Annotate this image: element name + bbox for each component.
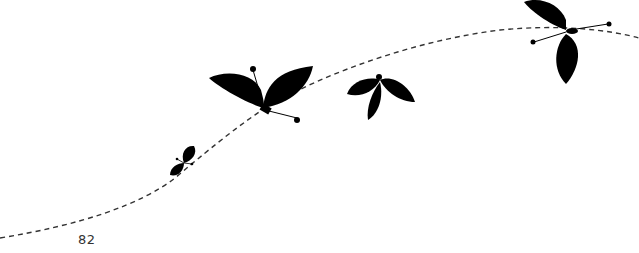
butterfly-top-right-icon (524, 0, 612, 84)
butterfly-middle-icon (347, 74, 415, 120)
page-number: 82 (78, 232, 96, 247)
dashed-flight-path (0, 28, 639, 238)
butterfly-small-icon (170, 146, 195, 175)
butterfly-large-icon (209, 66, 313, 123)
butterfly-flight-illustration (0, 0, 639, 253)
